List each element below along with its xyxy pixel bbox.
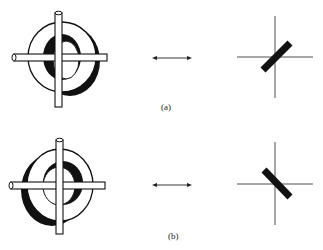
- panel-a-label: (a): [161, 102, 171, 112]
- panel-b-ring-object: [9, 138, 105, 234]
- figure-canvas: [0, 0, 323, 250]
- panel-a-arrow: [152, 56, 192, 60]
- panel-a-tilted-bar: [263, 43, 290, 70]
- panel-a-ring-object: [12, 11, 107, 107]
- panel-b-tilted-bar: [264, 170, 290, 197]
- panel-b-label: (b): [168, 231, 179, 241]
- panel-b-arrow: [152, 183, 192, 187]
